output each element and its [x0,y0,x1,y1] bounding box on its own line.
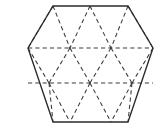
hexagon-triangular-grid-figure [0,0,165,130]
figure-canvas [0,0,165,130]
